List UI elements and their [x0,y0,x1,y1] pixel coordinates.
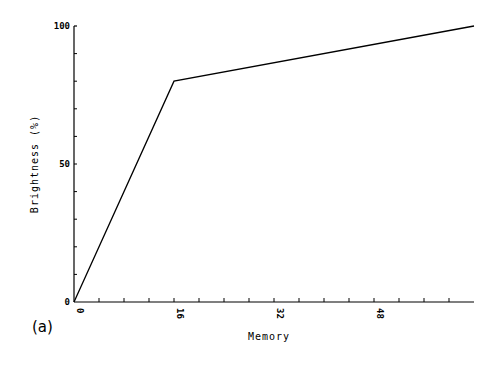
panel-label: (a) [32,318,53,336]
y-tick-label: 0 [65,297,70,307]
y-tick-label: 50 [59,159,70,169]
y-axis-label: Brightness (%) [29,115,40,213]
x-tick-label: 16 [175,308,185,319]
x-axis-label: Memory [248,331,290,342]
x-tick-label: 0 [75,308,85,313]
x-tick-label: 48 [375,308,385,319]
axes [74,26,474,302]
brightness-line [74,26,474,302]
chart-canvas: 0163248050100 Memory Brightness (%) [0,0,499,371]
y-tick-label: 100 [54,21,70,31]
tick-labels: 0163248050100 [54,21,385,319]
x-tick-label: 32 [275,308,285,319]
